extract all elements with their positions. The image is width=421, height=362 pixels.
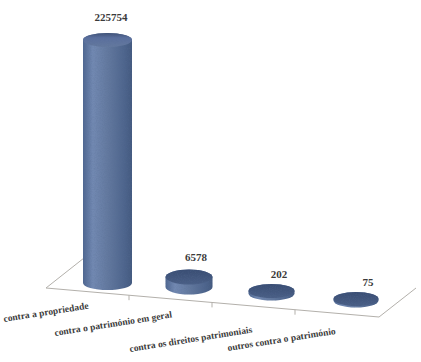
cylinder-texture-overlay xyxy=(40,25,400,315)
floor-right-edge xyxy=(379,288,416,317)
chart-canvas: 225754 6578 202 75 contra a propriedade … xyxy=(0,0,421,362)
value-label-contra-a-propriedade: 225754 xyxy=(95,11,129,23)
floor-left-edge xyxy=(46,258,84,288)
category-label-contra-o-patrimonio-em-geral: contra o património em geral xyxy=(54,309,173,338)
value-label-outros-contra-o-patrimonio: 75 xyxy=(363,276,375,288)
value-label-contra-o-patrimonio-em-geral: 6578 xyxy=(185,251,208,263)
3d-cylinder-chart: 225754 6578 202 75 contra a propriedade … xyxy=(0,0,421,362)
value-label-contra-os-direitos-patrimoniais: 202 xyxy=(271,268,288,280)
category-label-contra-a-propriedade: contra a propriedade xyxy=(3,301,89,324)
